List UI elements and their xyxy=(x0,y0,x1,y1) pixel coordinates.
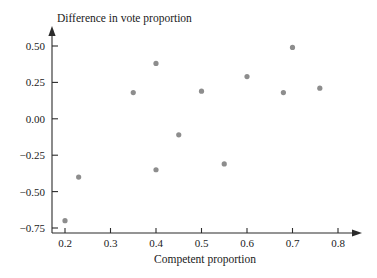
scatter-plot-figure: 0.500.250.00−0.25−0.50−0.75 0.20.30.40.5… xyxy=(0,0,377,278)
data-point xyxy=(317,86,322,91)
data-point xyxy=(76,174,81,179)
y-axis-title: Difference in vote proportion xyxy=(57,12,192,25)
x-tick-label: 0.7 xyxy=(286,237,300,249)
x-tick-label: 0.8 xyxy=(331,237,345,249)
x-tick-label: 0.4 xyxy=(149,237,163,249)
y-tick-label: −0.50 xyxy=(20,186,46,198)
data-point xyxy=(222,161,227,166)
y-tick-label: 0.25 xyxy=(26,76,46,88)
y-tick-label: 0.00 xyxy=(26,113,46,125)
x-axis-arrow-icon xyxy=(352,229,362,236)
x-tick-label: 0.6 xyxy=(240,237,254,249)
y-axis xyxy=(48,26,55,233)
data-point xyxy=(290,45,295,50)
x-axis-title: Competent proportion xyxy=(154,253,256,266)
plot-canvas: 0.500.250.00−0.25−0.50−0.75 0.20.30.40.5… xyxy=(0,0,377,278)
x-axis xyxy=(52,229,362,236)
x-tick-label: 0.5 xyxy=(195,237,209,249)
y-tick-label: 0.50 xyxy=(26,40,46,52)
y-tick-label: −0.75 xyxy=(20,222,46,234)
data-point xyxy=(131,90,136,95)
y-axis-arrow-icon xyxy=(48,26,55,36)
data-point xyxy=(281,90,286,95)
data-point xyxy=(153,61,158,66)
x-tick-label: 0.2 xyxy=(58,237,72,249)
data-point xyxy=(176,132,181,137)
data-point xyxy=(62,218,67,223)
data-point xyxy=(199,89,204,94)
y-tick-label: −0.25 xyxy=(20,149,46,161)
data-point xyxy=(153,167,158,172)
x-axis-ticks: 0.20.30.40.50.60.70.8 xyxy=(58,228,345,249)
x-tick-label: 0.3 xyxy=(104,237,118,249)
data-point xyxy=(244,74,249,79)
data-points xyxy=(62,45,322,223)
